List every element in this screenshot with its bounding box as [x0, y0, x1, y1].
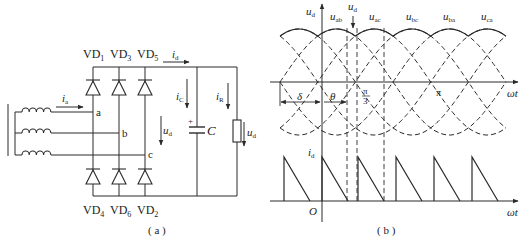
caption-a: ( a ) [148, 224, 166, 237]
delta-label: δ [297, 90, 303, 102]
ud-load-label: ud [247, 126, 257, 140]
capacitor-label: C [207, 123, 216, 138]
ud-bridge-label: ud [163, 124, 173, 138]
diode-vd3-icon [112, 80, 126, 95]
capacitor-icon [189, 127, 205, 133]
label-vd1: VD1 [83, 47, 104, 63]
origin-label: O [309, 205, 317, 217]
node-b-label: b [122, 127, 128, 139]
diode-vd4-icon [86, 169, 100, 184]
ubc-label: ubc [406, 10, 418, 24]
inductor-c-icon [22, 151, 51, 155]
inductor-b-icon [22, 129, 51, 133]
node-c-label: c [148, 148, 153, 160]
ud-marker-label: ud [348, 0, 358, 14]
label-vd6: VD6 [110, 203, 131, 219]
label-vd3: VD3 [110, 47, 131, 63]
ic-label: iC [176, 90, 184, 104]
diode-vd6-icon [112, 169, 126, 184]
ud-xaxis-label: ωt [507, 87, 519, 99]
uac-label: uac [369, 10, 381, 24]
waveform-panel-b: ud ud uab uac ubc uba uca ωt δ θ π 3 π i… [270, 0, 519, 237]
label-vd4: VD4 [83, 203, 104, 219]
resistor-icon [233, 120, 241, 142]
id-axis-label: id [308, 146, 315, 160]
id-xaxis-label: ωt [507, 206, 519, 218]
uca-label: uca [481, 10, 494, 24]
capacitor-polarity-label: + [188, 116, 193, 126]
caption-b: ( b ) [377, 224, 396, 237]
id-pulses [284, 157, 498, 201]
diode-vd5-icon [138, 80, 152, 95]
ud-envelope [280, 29, 506, 36]
pi-over-3-numerator: π [363, 86, 368, 96]
pi-label: π [436, 87, 441, 98]
inductor-a-icon [22, 108, 51, 112]
label-vd5: VD5 [137, 47, 158, 63]
ir-label: iR [216, 90, 224, 104]
id-label: id [172, 48, 179, 62]
figure-canvas: VD1 VD3 VD5 VD4 VD6 VD2 a b c ia id iC i… [0, 0, 527, 242]
diode-vd1-icon [86, 80, 100, 95]
ud-axis-label: ud [306, 5, 316, 19]
pi-over-3-denominator: 3 [363, 96, 368, 106]
label-vd2: VD2 [137, 203, 158, 219]
theta-label: θ [330, 90, 336, 102]
node-a-label: a [96, 106, 101, 118]
ia-label: ia [62, 92, 69, 106]
diode-vd2-icon [138, 169, 152, 184]
uba-label: uba [443, 10, 456, 24]
uab-label: uab [330, 10, 343, 24]
